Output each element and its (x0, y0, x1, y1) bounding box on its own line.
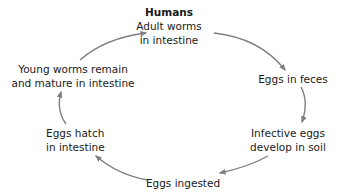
arrow-feces-to-soil (301, 87, 305, 122)
node-text: Eggs ingested (145, 176, 221, 190)
node-infective-eggs: Infective eggs develop in soil (248, 126, 328, 154)
node-eggs-in-feces: Eggs in feces (258, 72, 328, 86)
node-text: Infective eggs (248, 126, 328, 140)
arrow-ingested-to-hatch (96, 156, 148, 180)
arrow-soil-to-ingested (220, 156, 268, 173)
node-humans: Humans Adult worms in intestine (119, 5, 219, 47)
node-text: Eggs hatch (46, 126, 108, 140)
node-text: and mature in intestine (10, 76, 136, 90)
node-eggs-hatch: Eggs hatch in intestine (46, 126, 108, 154)
node-text: develop in soil (248, 140, 328, 154)
node-title: Humans (119, 5, 219, 19)
node-text: Young worms remain (10, 62, 136, 76)
node-eggs-ingested: Eggs ingested (145, 176, 221, 190)
arrow-hatch-to-mature (59, 92, 66, 124)
arrow-humans-to-feces (214, 33, 285, 70)
node-text: Adult worms (119, 19, 219, 33)
node-young-worms: Young worms remain and mature in intesti… (10, 62, 136, 90)
node-text: Eggs in feces (258, 72, 328, 86)
node-text: in intestine (119, 33, 219, 47)
node-text: in intestine (46, 140, 108, 154)
